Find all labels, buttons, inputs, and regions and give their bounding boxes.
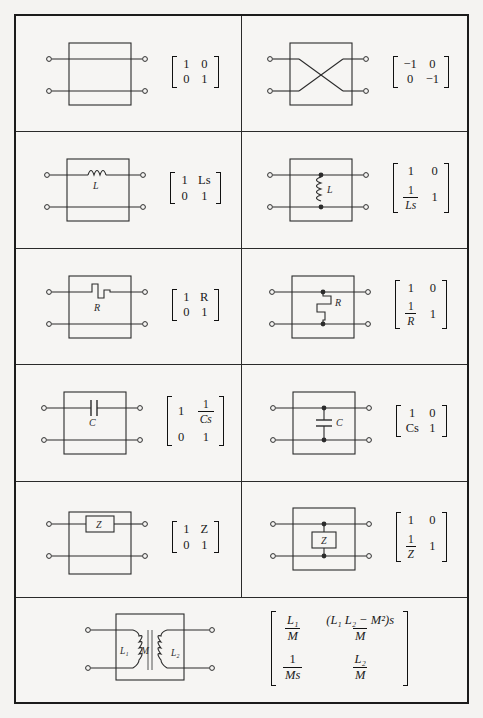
cell-transformer: L₁ M L₂ [L1/M (L1L2-M^2)s/M; 1/Ms L2/M] bbox=[16, 598, 467, 702]
matrix-a12: 0 bbox=[200, 58, 209, 71]
matrix-a22: 1 bbox=[430, 191, 439, 204]
cell-series-impedance: Z [1 Z; 0 1] 1 Z 0 1 bbox=[16, 482, 242, 597]
matrix-a21: 0 bbox=[182, 539, 191, 552]
secondary-inductor-label: L₂ bbox=[170, 648, 180, 658]
matrix-a21: Cs bbox=[406, 422, 419, 435]
fraction-numerator: 1 bbox=[406, 184, 416, 197]
matrix-a12: 1 Cs bbox=[198, 398, 214, 425]
matrix-a11: 1 bbox=[182, 523, 191, 536]
cell-shunt-impedance: Z [1 0; 1/Z 1] 1 0 bbox=[242, 482, 468, 597]
matrix-a12: (L₁ L₂ − M²)s M bbox=[324, 614, 396, 644]
cell-crossover-connection: [-1 0; 0 -1] −1 0 0 −1 bbox=[242, 16, 468, 131]
matrix-a21: 0 bbox=[180, 190, 189, 203]
capacitor-label: C bbox=[336, 417, 343, 428]
matrix-series-inductor: [1 Ls; 0 1] 1 Ls 0 1 bbox=[170, 172, 221, 208]
matrix-a11: 1 bbox=[408, 407, 417, 420]
matrix-series-impedance: [1 Z; 0 1] 1 Z 0 1 bbox=[172, 521, 219, 557]
fraction-numerator: 1 bbox=[406, 533, 416, 546]
matrix-shunt-impedance: [1 0; 1/Z 1] 1 0 1 Z bbox=[396, 512, 447, 566]
bracket-right-icon bbox=[219, 396, 224, 446]
matrix-a11: 1 bbox=[180, 174, 189, 187]
circuit-shunt-inductor: L bbox=[259, 147, 377, 233]
fraction-denominator: M bbox=[353, 667, 367, 682]
matrix-a21: 1 R bbox=[405, 300, 416, 327]
bracket-right-icon bbox=[442, 405, 447, 437]
fraction-denominator: M bbox=[285, 628, 299, 643]
fraction-denominator: M bbox=[353, 628, 367, 643]
matrix-a11: 1 bbox=[406, 514, 415, 527]
circuit-series-resistor: R bbox=[38, 264, 156, 350]
circuit-crossover-connection bbox=[259, 31, 377, 117]
matrix-a12: 0 bbox=[428, 407, 437, 420]
cell-series-inductor: L [1 Ls; 0 1] 1 Ls 0 1 bbox=[16, 132, 242, 247]
matrix-a21: 1 Ms bbox=[283, 653, 302, 683]
matrix-a11: 1 bbox=[182, 58, 191, 71]
fraction-numerator: 1 bbox=[287, 653, 297, 667]
fraction-numerator: (L₁ L₂ − M²)s bbox=[324, 614, 396, 628]
table-row: R [1 R; 0 1] 1 R 0 1 bbox=[16, 249, 467, 365]
impedance-label: Z bbox=[96, 519, 102, 530]
bracket-right-icon bbox=[214, 521, 219, 553]
matrix-shunt-resistor: [1 0; 1/R 1] 1 0 1 R bbox=[395, 280, 447, 334]
fraction-numerator: 1 bbox=[406, 300, 416, 313]
matrix-shunt-inductor: [1 0; 1/Ls 1] 1 0 1 Ls bbox=[393, 163, 449, 217]
cell-series-resistor: R [1 R; 0 1] 1 R 0 1 bbox=[16, 249, 242, 364]
matrix-a21: 0 bbox=[182, 73, 191, 86]
fraction-denominator: Z bbox=[406, 546, 416, 560]
mutual-inductance-label: M bbox=[140, 646, 150, 656]
matrix-a12: 0 bbox=[428, 514, 437, 527]
matrix-a22: 1 bbox=[200, 73, 209, 86]
matrix-a12: Ls bbox=[198, 174, 211, 187]
circuit-series-impedance: Z bbox=[38, 496, 156, 582]
matrix-series-capacitor: [1 1/Cs; 0 1] 1 1 Cs bbox=[167, 396, 224, 450]
fraction-denominator: Ms bbox=[283, 667, 302, 682]
bracket-right-icon bbox=[403, 611, 408, 686]
matrix-a12: 0 bbox=[428, 58, 437, 71]
matrix-negative-identity: [-1 0; 0 -1] −1 0 0 −1 bbox=[393, 56, 449, 92]
circuit-mutually-coupled-transformer: L₁ M L₂ bbox=[75, 604, 225, 696]
fraction-numerator: L₁ bbox=[285, 614, 300, 628]
matrix-a22: 1 bbox=[428, 422, 437, 435]
matrix-series-resistor: [1 R; 0 1] 1 R 0 1 bbox=[172, 289, 219, 325]
bracket-right-icon bbox=[216, 172, 221, 204]
matrix-a22: 1 bbox=[200, 306, 209, 319]
circuit-direct-through-connection bbox=[38, 31, 156, 117]
circuit-shunt-capacitor: C bbox=[262, 380, 380, 466]
matrix-a22: 1 bbox=[428, 308, 437, 321]
matrix-a12: R bbox=[200, 291, 209, 304]
matrix-a22: 1 bbox=[200, 190, 209, 203]
table-row: L [1 Ls; 0 1] 1 Ls 0 1 bbox=[16, 132, 467, 248]
table-grid: [1 0; 0 1] 1 0 0 1 bbox=[16, 16, 467, 702]
impedance-label: Z bbox=[321, 535, 327, 546]
element-matrix-table: [1 0; 0 1] 1 0 0 1 bbox=[14, 14, 469, 704]
cell-series-capacitor: C [1 1/Cs; 0 1] 1 bbox=[16, 365, 242, 480]
matrix-a21: 0 bbox=[406, 73, 415, 86]
matrix-identity: [1 0; 0 1] 1 0 0 1 bbox=[172, 56, 219, 92]
matrix-a12: 0 bbox=[428, 282, 437, 295]
matrix-a21: 0 bbox=[182, 306, 191, 319]
inductor-label: L bbox=[326, 184, 333, 195]
matrix-shunt-capacitor: [1 0; Cs 1] 1 0 Cs 1 bbox=[396, 405, 447, 441]
matrix-a22: 1 bbox=[428, 540, 437, 553]
fraction-numerator: L₂ bbox=[352, 653, 367, 667]
fraction-denominator: R bbox=[405, 313, 416, 327]
resistor-label: R bbox=[334, 297, 341, 308]
table-row: C [1 1/Cs; 0 1] 1 bbox=[16, 365, 467, 481]
matrix-a11: 1 bbox=[406, 282, 415, 295]
matrix-a11: −1 bbox=[403, 58, 416, 71]
circuit-series-inductor: L bbox=[36, 147, 154, 233]
cell-through-connection: [1 0; 0 1] 1 0 0 1 bbox=[16, 16, 242, 131]
table-row: Z [1 Z; 0 1] 1 Z 0 1 bbox=[16, 482, 467, 598]
matrix-a21: 1 Ls bbox=[403, 184, 418, 211]
fraction-denominator: Cs bbox=[198, 411, 214, 425]
matrix-a12: Z bbox=[200, 523, 209, 536]
matrix-a22: 1 bbox=[200, 539, 209, 552]
matrix-a21: 1 Z bbox=[406, 533, 416, 560]
matrix-a12: 0 bbox=[430, 165, 439, 178]
cell-shunt-capacitor: C [1 0; Cs 1] 1 0 Cs 1 bbox=[242, 365, 468, 480]
circuit-shunt-impedance: Z bbox=[262, 496, 380, 582]
bracket-right-icon bbox=[442, 280, 447, 330]
matrix-a11: 1 bbox=[182, 291, 191, 304]
matrix-a11: 1 bbox=[406, 165, 415, 178]
capacitor-label: C bbox=[89, 417, 96, 428]
